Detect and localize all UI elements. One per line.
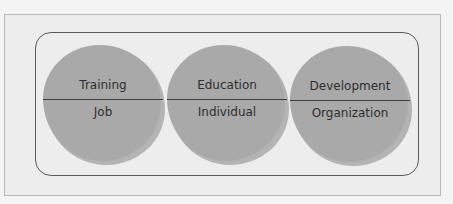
circle-bottom-label: Job: [43, 105, 163, 119]
circle-bottom-label: Organization: [290, 106, 410, 120]
divider-line: [43, 99, 163, 100]
circle-top-label: Training: [43, 78, 163, 92]
circle-fill: [290, 46, 408, 162]
divider-line: [167, 99, 287, 100]
circle-fill: [167, 45, 285, 161]
circle-education-individual: Education Individual: [167, 45, 287, 163]
circle-development-organization: Development Organization: [290, 46, 410, 164]
circle-bottom-label: Individual: [167, 105, 287, 119]
circle-top-label: Development: [290, 79, 410, 93]
divider-line: [290, 100, 410, 101]
circle-training-job: Training Job: [43, 45, 163, 163]
circle-fill: [43, 45, 161, 161]
circle-top-label: Education: [167, 78, 287, 92]
